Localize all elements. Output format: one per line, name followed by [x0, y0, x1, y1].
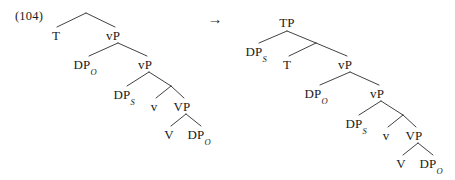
node-subscript: O: [91, 67, 97, 77]
branch-right-vbar-to-VP: [403, 115, 416, 127]
node-label: VP: [174, 99, 191, 114]
tree-node-left-T: T: [52, 29, 60, 45]
rightwards-arrow-icon: →: [208, 12, 223, 27]
node-label: V: [164, 127, 174, 142]
branch-left-vbar-to-VP: [171, 86, 184, 98]
node-label: VP: [406, 128, 423, 143]
node-label: vP: [370, 86, 384, 101]
tree-node-left-v: v: [151, 100, 158, 116]
branch-right-vP1-to-vP2: [350, 72, 379, 85]
tree-node-right-DP-O-2: DPO: [419, 157, 442, 173]
node-label: TP: [279, 15, 294, 30]
syntax-tree-figure: (104) → T vP DPO vP DPS v VP V DPO TP DP…: [0, 0, 455, 180]
node-subscript: S: [363, 126, 367, 136]
tree-node-right-T: T: [283, 58, 291, 74]
tree-node-left-DP-S: DPS: [113, 88, 134, 104]
node-label: v: [151, 99, 158, 114]
node-label: T: [52, 28, 60, 43]
tree-node-left-VP: VP: [174, 100, 191, 116]
branch-right-TP-to-Tbar: [287, 31, 316, 43]
tree-node-right-TP: TP: [279, 16, 294, 32]
node-subscript: O: [437, 166, 443, 176]
tree-branch-lines: [0, 0, 455, 180]
tree-node-right-v: v: [383, 129, 390, 145]
node-label: v: [383, 128, 390, 143]
node-subscript: S: [263, 54, 267, 64]
branch-right-vbar-to-v: [388, 115, 403, 127]
node-label: DP: [113, 87, 130, 102]
branch-left-vP2-to-DPS: [127, 72, 149, 86]
node-label: vP: [338, 57, 352, 72]
node-subscript: S: [131, 97, 135, 107]
node-label: DP: [245, 44, 262, 59]
node-label: DP: [73, 57, 90, 72]
example-number: (104): [15, 10, 43, 23]
node-subscript: O: [322, 96, 328, 106]
branch-left-vbar-to-v: [156, 86, 171, 98]
node-label: DP: [187, 127, 204, 142]
tree-node-right-vP-2: vP: [370, 87, 384, 103]
tree-node-right-DP-O-1: DPO: [304, 87, 327, 103]
node-label: V: [396, 156, 406, 171]
node-label: DP: [419, 156, 436, 171]
tree-node-left-DP-O-1: DPO: [73, 58, 96, 74]
tree-node-right-DP-S-2: DPS: [345, 117, 366, 133]
node-label: DP: [345, 116, 362, 131]
branch-right-vP2-to-vbar: [381, 101, 403, 115]
tree-node-right-VP: VP: [406, 129, 423, 145]
node-subscript: O: [205, 137, 211, 147]
branch-right-TP-to-DPS1: [259, 31, 287, 43]
tree-node-left-vP-1: vP: [106, 29, 120, 45]
tree-node-left-DP-O-2: DPO: [187, 128, 210, 144]
tree-node-right-V: V: [396, 157, 406, 173]
node-label: vP: [138, 57, 152, 72]
node-label: vP: [106, 28, 120, 43]
tree-node-right-DP-S-1: DPS: [245, 45, 266, 61]
tree-node-left-vP-2: vP: [138, 58, 152, 74]
branch-left-apex-to-vP1: [86, 13, 115, 27]
tree-node-left-V: V: [164, 128, 174, 144]
branch-right-vP2-to-DPS2: [359, 101, 381, 115]
tree-node-right-vP-1: vP: [338, 58, 352, 74]
branch-right-Tbar-to-T: [289, 43, 316, 56]
branch-left-apex-to-T: [57, 13, 86, 27]
branch-left-vP1-to-vP2: [118, 43, 147, 56]
node-label: T: [283, 57, 291, 72]
branch-left-vP2-to-vbar: [149, 72, 171, 86]
branch-right-Tbar-to-vP1: [316, 43, 347, 56]
node-label: DP: [304, 86, 321, 101]
